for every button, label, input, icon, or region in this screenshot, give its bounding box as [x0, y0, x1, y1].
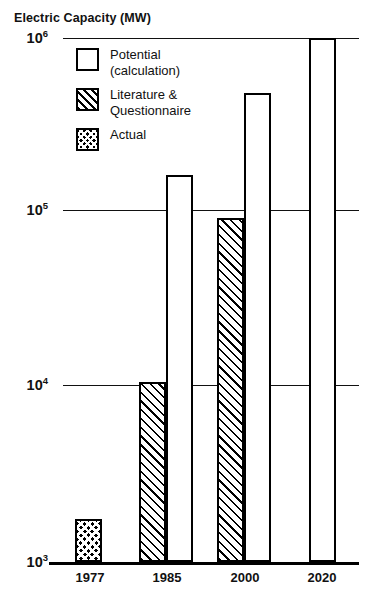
chart-figure: Electric Capacity (MW) 106 105 104 103 1…	[0, 0, 367, 606]
chart-title: Electric Capacity (MW)	[14, 11, 151, 25]
legend-swatch-actual-icon	[76, 128, 99, 151]
y-tick-1e6-exponent: 6	[43, 28, 48, 39]
bar-1985-literature	[139, 382, 166, 562]
chart-legend: Potential (calculation) Literature & Que…	[76, 47, 246, 160]
legend-item-literature: Literature & Questionnaire	[76, 87, 246, 118]
y-tick-1e3-base: 10	[27, 554, 43, 570]
legend-label-potential: Potential (calculation)	[110, 47, 180, 78]
bar-1977-actual	[75, 519, 102, 562]
x-tick-2000: 2000	[231, 570, 260, 585]
legend-swatch-literature-icon	[76, 88, 99, 111]
bar-2000-literature	[217, 218, 244, 562]
bar-2000-potential	[244, 93, 271, 562]
y-tick-1e5-base: 10	[27, 202, 43, 218]
legend-label-literature: Literature & Questionnaire	[110, 87, 191, 118]
x-tick-1977: 1977	[76, 570, 105, 585]
bar-1985-potential	[166, 175, 193, 562]
y-tick-1e3: 103	[27, 554, 48, 570]
legend-label-actual: Actual	[110, 127, 146, 143]
y-tick-1e5: 105	[27, 202, 48, 218]
y-tick-1e4: 104	[27, 377, 48, 393]
x-tick-2020: 2020	[308, 570, 337, 585]
y-tick-1e3-exponent: 3	[43, 552, 48, 563]
y-tick-1e4-exponent: 4	[43, 375, 48, 386]
y-tick-1e5-exponent: 5	[43, 200, 48, 211]
y-tick-1e6-base: 10	[27, 30, 43, 46]
y-tick-1e6: 106	[27, 30, 48, 46]
legend-item-potential: Potential (calculation)	[76, 47, 246, 78]
bar-2020-potential	[309, 38, 336, 562]
legend-item-actual: Actual	[76, 127, 246, 151]
legend-swatch-potential-icon	[76, 48, 99, 71]
x-axis-baseline	[49, 562, 359, 565]
y-tick-1e4-base: 10	[27, 377, 43, 393]
x-tick-1985: 1985	[153, 570, 182, 585]
